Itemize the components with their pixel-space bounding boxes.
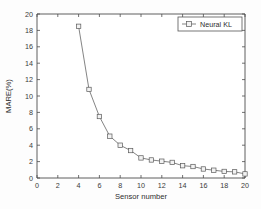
x-tick-label: 0 xyxy=(35,181,39,190)
y-tick-label: 4 xyxy=(29,141,33,150)
x-tick-label: 18 xyxy=(220,181,228,190)
x-tick-label: 16 xyxy=(199,181,207,190)
data-point-marker xyxy=(108,134,112,138)
y-tick-label: 16 xyxy=(25,42,33,51)
y-tick-label: 10 xyxy=(25,92,33,101)
x-tick-label: 6 xyxy=(97,181,101,190)
data-point-marker xyxy=(222,169,226,173)
x-tick-label: 14 xyxy=(179,181,187,190)
data-point-marker xyxy=(201,167,205,171)
y-tick-label: 12 xyxy=(25,75,33,84)
x-tick-label: 8 xyxy=(118,181,122,190)
line-chart-svg: 02468101214161820 02468101214161820 Sens… xyxy=(0,0,261,209)
data-point-marker xyxy=(118,143,122,147)
data-point-marker xyxy=(149,158,153,162)
data-point-marker xyxy=(243,172,247,176)
x-axis-label: Sensor number xyxy=(115,192,167,201)
data-point-marker xyxy=(139,156,143,160)
y-tick-label: 2 xyxy=(29,157,33,166)
data-point-marker xyxy=(232,170,236,174)
y-tick-label: 18 xyxy=(25,26,33,35)
legend: Neural KL xyxy=(178,17,242,31)
data-point-marker xyxy=(180,164,184,168)
plot-area-background xyxy=(37,14,245,178)
data-point-marker xyxy=(76,24,80,28)
x-tick-label: 2 xyxy=(56,181,60,190)
y-tick-label: 20 xyxy=(25,10,33,19)
chart-figure: 02468101214161820 02468101214161820 Sens… xyxy=(0,0,261,209)
data-point-marker xyxy=(191,164,195,168)
x-tick-label: 10 xyxy=(137,181,145,190)
legend-square-marker-icon xyxy=(187,22,192,27)
data-point-marker xyxy=(160,159,164,163)
data-point-marker xyxy=(212,168,216,172)
y-tick-label: 0 xyxy=(29,174,33,183)
y-axis-label: MARE(%) xyxy=(4,79,13,113)
x-tick-label: 20 xyxy=(241,181,249,190)
legend-label-neural-kl: Neural KL xyxy=(200,20,232,29)
data-point-marker xyxy=(128,148,132,152)
y-tick-label: 6 xyxy=(29,124,33,133)
y-tick-label: 8 xyxy=(29,108,33,117)
data-point-marker xyxy=(87,87,91,91)
data-point-marker xyxy=(170,160,174,164)
y-tick-label: 14 xyxy=(25,59,33,68)
data-point-marker xyxy=(97,114,101,118)
x-tick-label: 4 xyxy=(77,181,81,190)
x-tick-label: 12 xyxy=(158,181,166,190)
